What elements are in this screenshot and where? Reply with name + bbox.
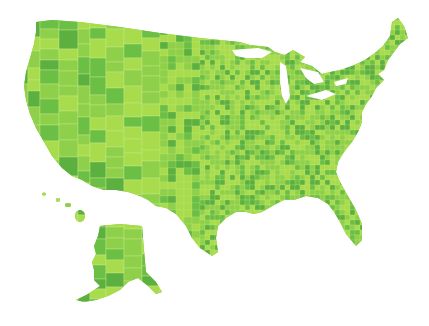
- map-canvas: [0, 0, 429, 326]
- county-cells: [0, 0, 429, 326]
- us-county-map: [0, 0, 429, 326]
